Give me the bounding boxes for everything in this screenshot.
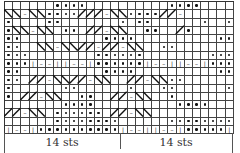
stitch-cell bbox=[79, 68, 87, 76]
stitch-cell: – bbox=[160, 60, 168, 68]
stitch-cell bbox=[87, 43, 95, 51]
stitch-cell bbox=[217, 43, 225, 51]
stitch-cell bbox=[128, 68, 136, 76]
stitch-cell bbox=[119, 85, 127, 93]
stitch-cell: | bbox=[144, 60, 152, 68]
stitch-cell: – bbox=[177, 10, 185, 18]
stitch-cell bbox=[152, 52, 160, 60]
stitch-cell bbox=[111, 10, 119, 18]
stitch-cell bbox=[21, 85, 29, 93]
stitch-cell bbox=[160, 101, 168, 109]
stitch-cell bbox=[177, 2, 185, 10]
stitch-cell bbox=[79, 52, 87, 60]
stitch-cell bbox=[201, 76, 209, 84]
stitch-cell bbox=[95, 35, 103, 43]
stitch-cell bbox=[5, 2, 13, 10]
stitch-cell: – bbox=[128, 109, 136, 117]
stitch-cell bbox=[209, 76, 217, 84]
stitch-cell bbox=[5, 93, 13, 101]
stitch-cell bbox=[185, 68, 193, 76]
stitch-cell: – bbox=[144, 76, 152, 84]
stitch-cell bbox=[209, 68, 217, 76]
stitch-cell bbox=[217, 10, 225, 18]
stitch-cell bbox=[103, 93, 111, 101]
stitch-cell bbox=[193, 2, 201, 10]
stitch-cell bbox=[79, 126, 87, 134]
stitch-cell bbox=[217, 35, 225, 43]
stitch-cell: – bbox=[103, 27, 111, 35]
stitch-cell bbox=[226, 27, 234, 35]
stitch-cell bbox=[144, 43, 152, 51]
stitch-cell bbox=[193, 68, 201, 76]
stitch-cell bbox=[13, 35, 21, 43]
stitch-cell bbox=[144, 85, 152, 93]
stitch-cell bbox=[54, 118, 62, 126]
stitch-cell bbox=[70, 19, 78, 27]
stitch-cell: | bbox=[168, 60, 176, 68]
stitch-cell bbox=[185, 118, 193, 126]
stitch-cell bbox=[46, 19, 54, 27]
stitch-cell bbox=[13, 60, 21, 68]
stitch-cell bbox=[152, 85, 160, 93]
stitch-cell bbox=[217, 27, 225, 35]
knitting-chart: ––––––––|––||––||––||––|–––––––|––||––||… bbox=[4, 1, 233, 133]
stitch-cell bbox=[128, 19, 136, 27]
stitch-cell bbox=[62, 109, 70, 117]
stitch-cell bbox=[95, 101, 103, 109]
stitch-cell bbox=[21, 68, 29, 76]
stitch-cell bbox=[136, 101, 144, 109]
stitch-cell bbox=[144, 2, 152, 10]
stitch-cell bbox=[152, 109, 160, 117]
stitch-cell bbox=[87, 93, 95, 101]
stitch-cell bbox=[103, 118, 111, 126]
stitch-cell bbox=[144, 19, 152, 27]
stitch-cell: – bbox=[46, 60, 54, 68]
stitch-cell bbox=[177, 76, 185, 84]
stitch-cell bbox=[13, 68, 21, 76]
stitch-cell bbox=[5, 27, 13, 35]
stitch-cell bbox=[168, 27, 176, 35]
stitch-cell bbox=[21, 60, 29, 68]
stitch-cell bbox=[95, 93, 103, 101]
stitch-cell bbox=[21, 76, 29, 84]
stitch-cell bbox=[54, 27, 62, 35]
stitch-cell bbox=[103, 43, 111, 51]
stitch-cell bbox=[226, 68, 234, 76]
stitch-cell bbox=[201, 93, 209, 101]
stitch-cell: – bbox=[128, 126, 136, 134]
stitch-cell bbox=[144, 109, 152, 117]
stitch-cell bbox=[226, 10, 234, 18]
stitch-cell bbox=[119, 35, 127, 43]
stitch-cell bbox=[46, 93, 54, 101]
stitch-cell bbox=[226, 85, 234, 93]
stitch-cell bbox=[111, 85, 119, 93]
stitch-cell bbox=[13, 52, 21, 60]
stitch-cell bbox=[168, 109, 176, 117]
stitch-cell bbox=[168, 76, 176, 84]
stitch-cell bbox=[160, 52, 168, 60]
stitch-cell bbox=[103, 68, 111, 76]
stitch-cell bbox=[46, 118, 54, 126]
stitch-cell bbox=[79, 109, 87, 117]
stitch-cell bbox=[177, 35, 185, 43]
stitch-cell bbox=[209, 52, 217, 60]
stitch-cell bbox=[201, 27, 209, 35]
stitch-cell bbox=[54, 35, 62, 43]
stitch-cell bbox=[95, 85, 103, 93]
stitch-cell bbox=[160, 19, 168, 27]
stitch-cell bbox=[201, 43, 209, 51]
stitch-cell bbox=[168, 43, 176, 51]
stitch-cell bbox=[193, 101, 201, 109]
stitch-cell bbox=[168, 85, 176, 93]
stitch-cell bbox=[62, 76, 70, 84]
stitch-cell bbox=[38, 52, 46, 60]
stitch-cell bbox=[103, 60, 111, 68]
stitch-cell bbox=[193, 35, 201, 43]
stitch-cell bbox=[21, 93, 29, 101]
stitch-cell bbox=[226, 93, 234, 101]
stitch-cell bbox=[136, 85, 144, 93]
stitch-cell bbox=[5, 52, 13, 60]
stitch-cell: – bbox=[79, 60, 87, 68]
stitch-cell bbox=[201, 52, 209, 60]
stitch-cell bbox=[136, 10, 144, 18]
